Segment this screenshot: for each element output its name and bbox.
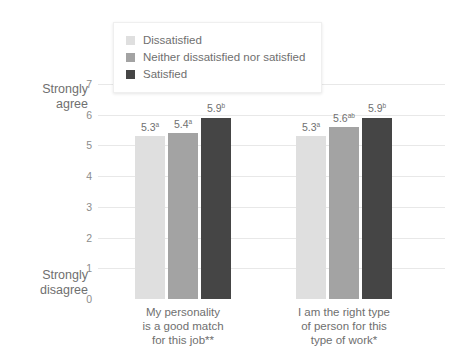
y-axis-tick-label: 7	[72, 79, 92, 90]
x-axis-category-label-line: My personality	[103, 305, 263, 319]
plot-area: 5.3a5.4a5.9b5.3a5.6ab5.9b	[98, 84, 445, 299]
legend-swatch-icon	[126, 53, 135, 62]
legend-swatch-icon	[126, 36, 135, 45]
bar-group: 5.3a5.6ab5.9b	[296, 84, 395, 299]
x-axis-category-label-line: is a good match	[103, 319, 263, 333]
bar-value-label: 5.9b	[368, 103, 386, 114]
bar-value-label: 5.3a	[141, 122, 159, 133]
x-axis-category-label: I am the right typeof person for thistyp…	[264, 305, 424, 347]
bar: 5.6ab	[329, 127, 359, 299]
y-axis-tick-label: 2	[72, 232, 92, 243]
y-axis-tick-label: 3	[72, 202, 92, 213]
legend-swatch-icon	[126, 70, 135, 79]
legend-item-label: Dissatisfied	[143, 35, 202, 47]
legend-item: Neither dissatisfied nor satisfied	[126, 49, 305, 66]
y-axis-tick-label: 4	[72, 171, 92, 182]
bar-value-label: 5.3a	[302, 122, 320, 133]
y-axis-tick-label: 5	[72, 140, 92, 151]
bar-chart: Strongly agree Strongly disagree 0123456…	[0, 0, 462, 360]
y-axis-tick-label: 0	[72, 294, 92, 305]
y-axis-tick-label: 1	[72, 263, 92, 274]
legend-item: Satisfied	[126, 66, 305, 83]
bar-value-label: 5.6ab	[333, 113, 355, 124]
x-axis-category-label-line: I am the right type	[264, 305, 424, 319]
y-axis: 01234567	[66, 84, 92, 299]
bar: 5.3a	[135, 136, 165, 299]
bar: 5.3a	[296, 136, 326, 299]
bar-group: 5.3a5.4a5.9b	[135, 84, 234, 299]
legend-item-label: Neither dissatisfied nor satisfied	[143, 52, 305, 64]
legend-item: Dissatisfied	[126, 32, 305, 49]
x-axis-category-label-line: type of work*	[264, 333, 424, 347]
bar: 5.9b	[201, 118, 231, 299]
legend: DissatisfiedNeither dissatisfied nor sat…	[113, 22, 322, 93]
x-axis-category-label-line: of person for this	[264, 319, 424, 333]
bar: 5.9b	[362, 118, 392, 299]
x-axis-category-label-line: for this job**	[103, 333, 263, 347]
bar: 5.4a	[168, 133, 198, 299]
bar-value-label: 5.4a	[174, 119, 192, 130]
bar-value-label: 5.9b	[207, 103, 225, 114]
y-axis-tick-label: 6	[72, 109, 92, 120]
x-axis-category-label: My personalityis a good matchfor this jo…	[103, 305, 263, 347]
legend-item-label: Satisfied	[143, 69, 187, 81]
